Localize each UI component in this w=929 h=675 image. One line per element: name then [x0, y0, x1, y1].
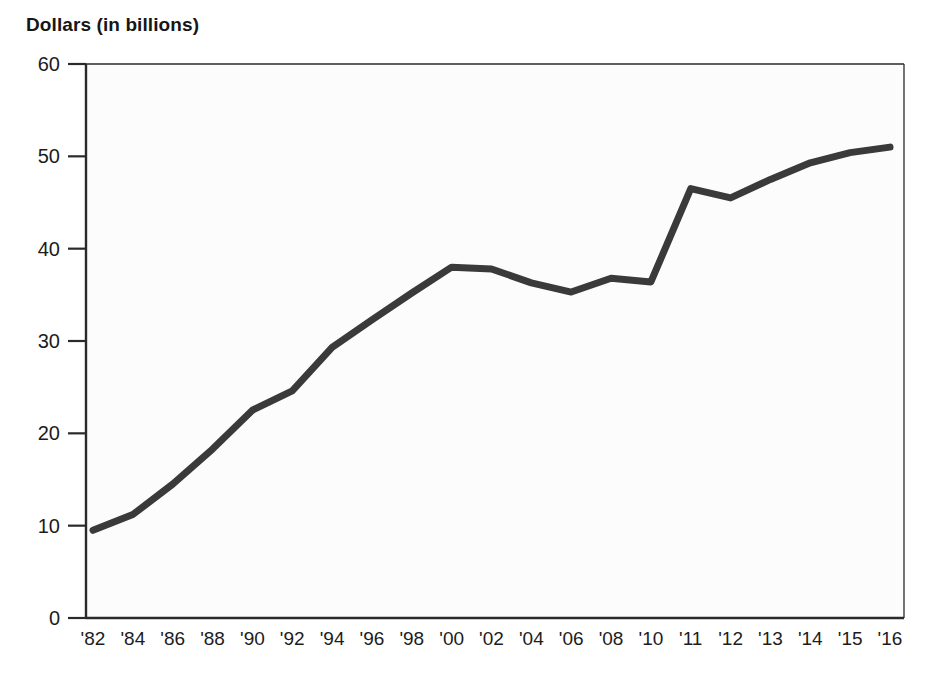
y-tick-label: 40 — [4, 237, 60, 260]
plot-area — [0, 0, 929, 675]
y-tick-label: 60 — [4, 53, 60, 76]
y-tick-label: 0 — [4, 607, 60, 630]
y-tick-label: 50 — [4, 145, 60, 168]
x-tick-label: '16 — [867, 628, 913, 650]
y-axis-tick-marks — [68, 64, 86, 618]
plot-background — [86, 64, 904, 618]
y-tick-label: 30 — [4, 330, 60, 353]
chart-figure: Dollars (in billions) 0102030405060 '82'… — [0, 0, 929, 675]
y-tick-label: 10 — [4, 514, 60, 537]
y-tick-label: 20 — [4, 422, 60, 445]
